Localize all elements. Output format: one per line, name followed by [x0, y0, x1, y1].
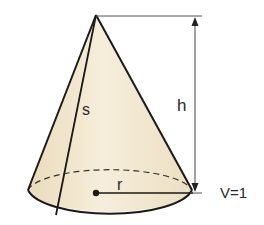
cone-diagram: s h r V=1 [0, 0, 264, 225]
label-volume: V=1 [220, 184, 247, 201]
cone-body [28, 15, 192, 212]
label-height: h [177, 96, 186, 115]
arrow-up-icon [192, 17, 199, 26]
label-slant-height: s [82, 101, 90, 118]
label-radius: r [117, 176, 123, 193]
